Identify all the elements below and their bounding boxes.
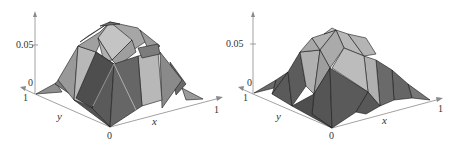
right-z-tick-0: 0: [247, 78, 252, 88]
left-x-tick-1: 1: [214, 105, 219, 115]
right-z-tick-005: 0.05: [226, 39, 244, 49]
left-plot-graphics: [0, 0, 228, 148]
left-z-tick-005: 0.05: [16, 40, 34, 50]
right-y-axis-label: y: [276, 111, 281, 121]
right-origin-tick: 0: [329, 131, 334, 141]
left-y-axis-label: y: [57, 111, 62, 121]
left-surface-plot: 0.05 0 1 0 1 x y: [0, 0, 228, 148]
left-x-axis-label: x: [152, 116, 157, 126]
left-y-tick-1: 1: [23, 93, 28, 103]
left-origin-tick: 0: [107, 131, 112, 141]
right-surface-plot: 0.05 0 1 0 1 x y: [228, 0, 456, 148]
right-x-axis-label: x: [382, 115, 387, 125]
right-plot-graphics: [228, 0, 456, 148]
right-x-tick-1: 1: [438, 104, 443, 114]
right-y-tick-1: 1: [243, 93, 248, 103]
left-z-tick-0: 0: [28, 78, 33, 88]
